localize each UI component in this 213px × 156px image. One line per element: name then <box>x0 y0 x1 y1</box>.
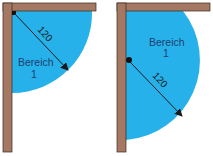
diagram-canvas: 120 Bereich 1 120 Bereich 1 <box>0 0 213 156</box>
left-panel: 120 Bereich 1 <box>3 3 96 152</box>
left-wall-side <box>3 3 12 152</box>
left-area-label-line2: 1 <box>31 68 37 80</box>
left-area-label-line1: Bereich <box>18 56 54 68</box>
left-wall-top <box>3 3 96 11</box>
right-area-label-line2: 1 <box>163 47 169 59</box>
right-panel: 120 Bereich 1 <box>117 3 210 152</box>
right-wall-side <box>117 3 126 152</box>
right-pivot-point <box>126 57 132 63</box>
right-wall-top <box>117 3 210 11</box>
